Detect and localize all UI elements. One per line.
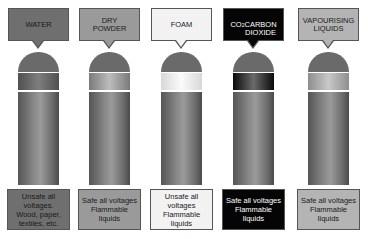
extinguisher-foam: FOAM Unsafe all voltages Flammable liqui… xyxy=(151,0,223,239)
extinguisher-top xyxy=(89,52,130,72)
type-label: VAPOURISING LIQUIDS xyxy=(298,8,359,41)
callout-pointer-fill xyxy=(176,40,186,47)
extinguisher-body xyxy=(161,92,202,185)
usage-info: Safe all voltages Flammable liquids xyxy=(297,189,360,230)
color-band xyxy=(161,73,202,90)
color-band xyxy=(89,73,130,90)
extinguisher-body xyxy=(89,92,130,185)
usage-info: Safe all voltages Flammable liquids xyxy=(222,189,285,230)
extinguisher-top xyxy=(308,52,349,72)
callout-pointer-fill xyxy=(33,40,43,47)
callout-pointer-fill xyxy=(323,40,333,47)
callout-pointer-fill xyxy=(248,40,258,47)
type-label: CO2CARBONDIOXIDE xyxy=(223,8,284,41)
extinguisher-dry-powder: DRY POWDER Safe all voltages Flammable l… xyxy=(79,0,151,239)
usage-info: Unsafe all voltages Flammable liquids xyxy=(150,189,213,230)
extinguisher-body xyxy=(308,92,349,185)
extinguisher-top xyxy=(161,52,202,72)
usage-info: Safe all voltages Flammable liquids xyxy=(78,189,141,230)
extinguisher-water: WATER Unsafe all voltages. Wood, paper, … xyxy=(8,0,80,239)
color-band xyxy=(308,73,349,90)
type-label: FOAM xyxy=(151,8,212,41)
color-band xyxy=(18,73,59,90)
extinguisher-body xyxy=(233,92,274,185)
type-label: DRY POWDER xyxy=(79,8,140,41)
callout-pointer-fill xyxy=(104,40,114,47)
usage-info: Unsafe all voltages. Wood, paper, textil… xyxy=(7,189,70,230)
extinguisher-co2: CO2CARBONDIOXIDE Safe all voltages Flamm… xyxy=(223,0,295,239)
color-band xyxy=(233,73,274,90)
extinguisher-top xyxy=(18,52,59,72)
type-label: WATER xyxy=(8,8,69,41)
extinguisher-body xyxy=(18,92,59,185)
extinguisher-vapourising-liquids: VAPOURISING LIQUIDS Safe all voltages Fl… xyxy=(298,0,368,239)
extinguisher-top xyxy=(233,52,274,72)
